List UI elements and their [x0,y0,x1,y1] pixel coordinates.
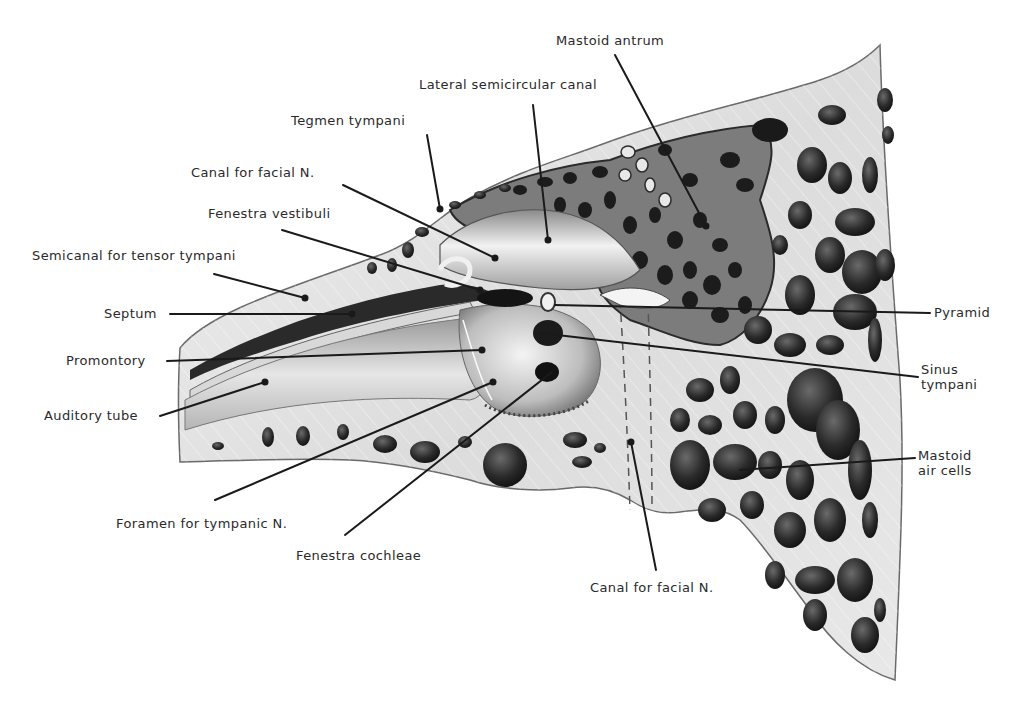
fenestra-cochleae [535,362,559,382]
illustration [0,0,1017,705]
anatomical-diagram: Mastoid antrum Lateral semicircular cana… [0,0,1017,705]
antrum-large-cell [752,118,788,142]
label-sinus-tympani: Sinus tympani [921,362,1001,392]
label-fenestra-cochleae: Fenestra cochleae [296,548,421,563]
leader-tegmen-tympani [427,135,440,209]
leader-semicanal-tensor-tympani [214,274,305,298]
label-auditory-tube: Auditory tube [44,408,138,423]
label-promontory: Promontory [66,353,146,368]
label-tegmen-tympani: Tegmen tympani [291,113,405,128]
fenestra-vestibuli [477,289,533,307]
label-fenestra-vestibuli: Fenestra vestibuli [208,206,330,221]
label-mastoid-antrum: Mastoid antrum [556,33,664,48]
label-septum: Septum [104,306,157,321]
label-semicanal-tensor-tympani: Semicanal for tensor tympani [32,248,236,263]
label-foramen-tympanic-n: Foramen for tympanic N. [116,516,287,531]
pyramid [541,293,555,311]
label-lateral-semicircular-canal: Lateral semicircular canal [419,77,597,92]
label-mastoid-air-cells: Mastoid air cells [918,448,998,478]
label-canal-facial-upper: Canal for facial N. [191,165,314,180]
label-canal-facial-lower: Canal for facial N. [590,580,713,595]
label-pyramid: Pyramid [934,305,990,320]
